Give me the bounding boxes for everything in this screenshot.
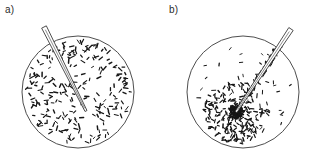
bacterium xyxy=(260,109,262,110)
bacterium xyxy=(230,114,231,115)
bacterium xyxy=(116,75,118,76)
panel-a-illustration xyxy=(0,0,155,158)
bacterium xyxy=(99,107,100,109)
bacterium xyxy=(261,114,262,117)
bacterium xyxy=(235,103,238,104)
bacterium xyxy=(60,92,61,94)
bacterium xyxy=(124,88,128,89)
bacterium xyxy=(32,102,34,103)
bacterium xyxy=(235,104,236,106)
bacterium xyxy=(41,114,44,115)
bacterium xyxy=(236,134,237,138)
bacterium xyxy=(240,143,243,144)
bacterium xyxy=(252,99,253,102)
bacterium xyxy=(228,140,231,141)
bacterium xyxy=(228,119,229,121)
bacterium xyxy=(246,129,249,130)
bacterium xyxy=(254,111,258,112)
bacterium xyxy=(208,117,209,119)
bacterium xyxy=(102,49,103,51)
panel-a: a) xyxy=(0,0,155,158)
bacterium xyxy=(209,109,212,110)
bacterium xyxy=(76,51,77,53)
panel-b-illustration xyxy=(155,0,311,158)
bacterium xyxy=(107,116,110,117)
bacterium xyxy=(54,92,58,93)
bacterium xyxy=(68,55,70,56)
bacterium xyxy=(232,99,235,100)
bacterium xyxy=(47,101,48,104)
bacterium xyxy=(215,114,216,116)
bacterium xyxy=(107,59,109,60)
bacterium xyxy=(82,74,85,75)
bacterium xyxy=(243,138,244,141)
bacterium xyxy=(226,111,227,114)
bacterium xyxy=(227,112,228,115)
bacterium xyxy=(228,108,230,109)
bacterium xyxy=(215,127,216,130)
panel-b: b) xyxy=(155,0,311,158)
bacterium xyxy=(277,91,280,92)
bacterium xyxy=(208,95,210,96)
bacterium xyxy=(62,92,66,93)
bacterium xyxy=(281,123,282,125)
bacterium xyxy=(242,133,244,134)
bacterium xyxy=(108,112,109,115)
bacterium xyxy=(42,55,46,56)
bacterium xyxy=(217,125,219,126)
bacterium xyxy=(246,102,248,103)
bacterium xyxy=(235,113,236,115)
bacterium xyxy=(89,78,90,81)
bacterium xyxy=(63,51,65,52)
bacterium xyxy=(64,47,65,49)
bacterium xyxy=(238,116,239,119)
bacterium xyxy=(247,125,248,127)
bacterium xyxy=(115,99,117,100)
bacterium xyxy=(70,65,71,67)
bacterium xyxy=(216,98,217,100)
bacterium xyxy=(39,103,40,105)
figure-root: a) b) xyxy=(0,0,311,158)
bacterium xyxy=(230,110,233,111)
bacterium xyxy=(72,98,73,101)
bacterium xyxy=(125,73,126,75)
bacterium xyxy=(255,131,256,134)
bacterium xyxy=(240,96,243,97)
bacterium xyxy=(108,108,109,111)
bacterium xyxy=(280,115,282,116)
bacterium xyxy=(259,83,261,84)
bacterium xyxy=(73,94,75,95)
bacterium xyxy=(84,98,86,99)
bacterium xyxy=(260,104,261,108)
bacterium xyxy=(215,103,218,104)
bacterium xyxy=(39,120,41,121)
bacterium xyxy=(274,85,276,86)
bacterium xyxy=(44,100,48,101)
bacterium xyxy=(231,127,232,130)
